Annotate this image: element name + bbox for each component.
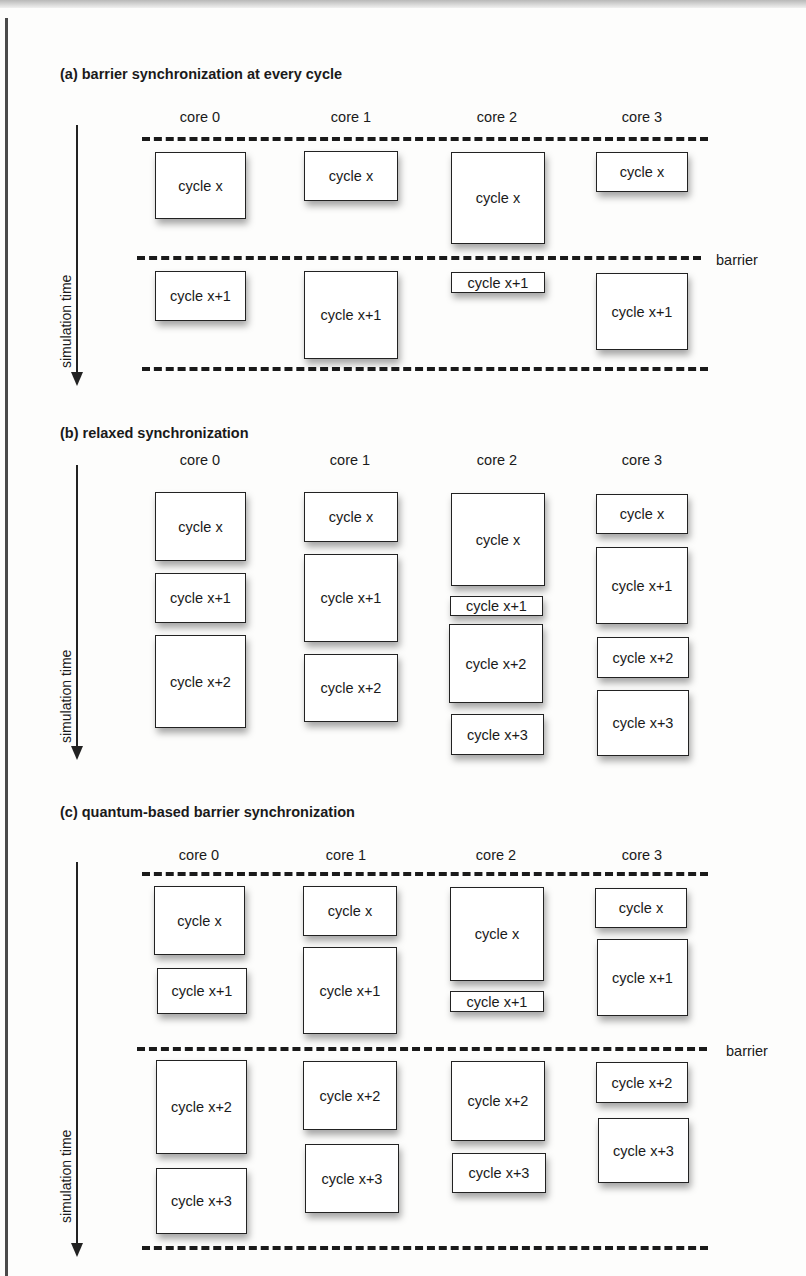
cycle-box: cycle x+1 bbox=[596, 273, 688, 350]
core-label: core 3 bbox=[592, 847, 692, 863]
cycle-box: cycle x+2 bbox=[597, 637, 689, 678]
cycle-box: cycle x bbox=[304, 492, 398, 542]
time-axis-line bbox=[76, 465, 78, 747]
cycle-box: cycle x+3 bbox=[598, 1118, 689, 1183]
cycle-box: cycle x+3 bbox=[452, 1153, 546, 1193]
cycle-box: cycle x bbox=[304, 151, 398, 201]
core-label: core 0 bbox=[150, 452, 250, 468]
cycle-box: cycle x bbox=[303, 886, 397, 936]
core-label: core 2 bbox=[446, 847, 546, 863]
cycle-box: cycle x+3 bbox=[597, 690, 689, 756]
cycle-box: cycle x+1 bbox=[157, 968, 247, 1014]
barrier-line bbox=[137, 256, 701, 260]
sync-line-bottom bbox=[142, 367, 708, 371]
cycle-box: cycle x+2 bbox=[156, 1060, 247, 1154]
cycle-box: cycle x+3 bbox=[156, 1168, 247, 1234]
time-axis-line bbox=[76, 862, 78, 1244]
cycle-box: cycle x bbox=[596, 494, 688, 534]
cycle-box: cycle x+1 bbox=[450, 991, 544, 1012]
time-axis-line bbox=[76, 125, 78, 373]
section-title: (c) quantum-based barrier synchronizatio… bbox=[60, 804, 355, 820]
cycle-box: cycle x+1 bbox=[450, 596, 543, 616]
cycle-box: cycle x bbox=[451, 152, 545, 244]
cycle-box: cycle x+1 bbox=[155, 573, 246, 623]
cycle-box: cycle x+2 bbox=[451, 1061, 545, 1141]
core-label: core 0 bbox=[150, 109, 250, 125]
core-label: core 2 bbox=[447, 452, 547, 468]
cycle-box: cycle x+2 bbox=[304, 654, 398, 722]
arrow-down-icon bbox=[71, 1243, 83, 1257]
core-label: core 3 bbox=[592, 452, 692, 468]
sync-line-top bbox=[142, 137, 708, 141]
cycle-box: cycle x+2 bbox=[449, 624, 543, 703]
cycle-box: cycle x+3 bbox=[451, 714, 544, 755]
cycle-box: cycle x bbox=[595, 888, 687, 928]
cycle-box: cycle x+1 bbox=[304, 554, 398, 642]
arrow-down-icon bbox=[71, 372, 83, 386]
cycle-box: cycle x bbox=[154, 886, 245, 955]
cycle-box: cycle x bbox=[155, 152, 246, 219]
axis-label: simulation time bbox=[58, 650, 74, 743]
cycle-box: cycle x+2 bbox=[303, 1061, 397, 1130]
sync-line-top bbox=[142, 872, 708, 876]
section-title: (b) relaxed synchronization bbox=[60, 425, 249, 441]
section-title: (a) barrier synchronization at every cyc… bbox=[60, 66, 342, 82]
cycle-box: cycle x+2 bbox=[596, 1062, 688, 1103]
cycle-box: cycle x+1 bbox=[155, 271, 246, 321]
core-label: core 0 bbox=[149, 847, 249, 863]
axis-label: simulation time bbox=[58, 1130, 74, 1223]
barrier-line bbox=[137, 1047, 707, 1051]
cycle-box: cycle x bbox=[451, 493, 545, 586]
core-label: core 3 bbox=[592, 109, 692, 125]
sync-line-bottom bbox=[142, 1246, 708, 1250]
cycle-box: cycle x+1 bbox=[304, 271, 398, 359]
cycle-box: cycle x+3 bbox=[305, 1144, 399, 1213]
core-label: core 1 bbox=[300, 452, 400, 468]
arrow-down-icon bbox=[71, 746, 83, 760]
cycle-box: cycle x+2 bbox=[155, 635, 246, 728]
core-label: core 1 bbox=[301, 109, 401, 125]
cycle-box: cycle x+1 bbox=[597, 939, 688, 1016]
cycle-box: cycle x+1 bbox=[451, 272, 545, 293]
core-label: core 2 bbox=[447, 109, 547, 125]
core-label: core 1 bbox=[296, 847, 396, 863]
barrier-label: barrier bbox=[726, 1043, 768, 1059]
page-margin-rule bbox=[5, 18, 8, 1276]
cycle-box: cycle x bbox=[450, 887, 544, 981]
cycle-box: cycle x+1 bbox=[303, 947, 397, 1034]
cycle-box: cycle x bbox=[596, 152, 688, 192]
axis-label: simulation time bbox=[58, 275, 74, 368]
page-top-edge bbox=[0, 0, 806, 8]
cycle-box: cycle x bbox=[155, 492, 246, 561]
barrier-label: barrier bbox=[716, 252, 758, 268]
cycle-box: cycle x+1 bbox=[596, 547, 688, 624]
